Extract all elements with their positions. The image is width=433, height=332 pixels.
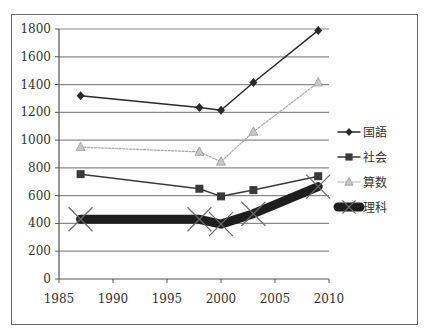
y-tick-label: 1000 xyxy=(20,133,51,147)
triangle-marker-icon xyxy=(76,142,85,151)
y-tick-label: 800 xyxy=(28,161,51,175)
legend-item: 国語 xyxy=(338,125,387,140)
y-tick-label: 1200 xyxy=(20,105,51,119)
y-tick-label: 0 xyxy=(43,272,51,286)
square-marker-icon xyxy=(249,186,257,194)
axes xyxy=(55,29,329,283)
diamond-marker-icon xyxy=(345,128,352,136)
series-3 xyxy=(69,175,331,237)
y-tick-label: 400 xyxy=(28,216,51,230)
y-tick-label: 1400 xyxy=(20,78,51,92)
y-tick-label: 1800 xyxy=(20,22,51,36)
square-marker-icon xyxy=(77,170,85,178)
legend-item: 算数 xyxy=(338,175,387,190)
square-marker-icon xyxy=(217,192,225,200)
triangle-marker-icon xyxy=(314,77,323,86)
data-series xyxy=(69,26,331,236)
series-0 xyxy=(77,26,323,115)
x-tick-label: 1990 xyxy=(98,292,129,306)
y-tick-label: 200 xyxy=(28,244,51,258)
triangle-marker-icon xyxy=(249,127,258,135)
line-chart: 020040060080010001200140016001800 198519… xyxy=(0,0,433,332)
square-marker-icon xyxy=(195,185,203,193)
x-tick-label: 2000 xyxy=(206,292,237,306)
legend-item: 社会 xyxy=(338,150,387,165)
series-line xyxy=(81,30,319,110)
x-tick-label: 1995 xyxy=(152,292,183,306)
legend-label: 理科 xyxy=(363,201,387,215)
square-marker-icon xyxy=(345,153,352,160)
legend: 国語社会算数理科 xyxy=(338,125,387,215)
x-axis-tick-labels: 198519901995200020052010 xyxy=(44,292,345,306)
y-tick-label: 1600 xyxy=(20,50,51,64)
series-2 xyxy=(76,77,323,165)
y-tick-label: 600 xyxy=(28,189,51,203)
diamond-marker-icon xyxy=(77,91,85,100)
x-tick-label: 2010 xyxy=(314,292,345,306)
square-marker-icon xyxy=(314,172,322,180)
x-tick-label: 1985 xyxy=(44,292,75,306)
triangle-marker-icon xyxy=(217,157,226,166)
y-axis-tick-labels: 020040060080010001200140016001800 xyxy=(20,22,51,286)
diamond-marker-icon xyxy=(195,103,203,112)
triangle-marker-icon xyxy=(195,147,204,156)
legend-item: 理科 xyxy=(338,200,387,214)
legend-label: 国語 xyxy=(363,125,387,140)
legend-label: 算数 xyxy=(363,175,387,190)
legend-label: 社会 xyxy=(363,150,387,165)
triangle-marker-icon xyxy=(345,178,353,186)
x-tick-label: 2005 xyxy=(260,292,291,306)
